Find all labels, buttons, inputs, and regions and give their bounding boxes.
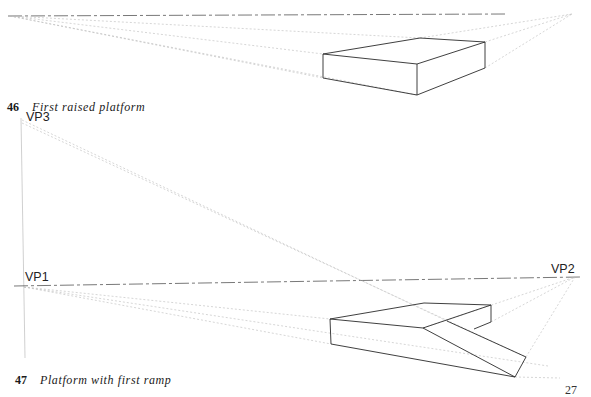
platform-with-ramp <box>330 303 526 377</box>
figure-number: 47 <box>15 373 27 387</box>
raised-platform-box <box>323 38 485 95</box>
perspective-drawings <box>0 0 591 397</box>
figure-47-drawing <box>14 118 580 378</box>
horizon-line <box>14 277 580 286</box>
vp3-label: VP3 <box>26 110 50 124</box>
page-number: 27 <box>565 383 577 397</box>
horizon-line <box>8 14 505 16</box>
figure-46-drawing <box>8 14 572 95</box>
figure-title: Platform with first ramp <box>40 373 171 387</box>
vp2-label: VP2 <box>551 262 575 276</box>
figure-number: 46 <box>7 100 19 114</box>
construction-lines <box>10 14 572 95</box>
construction-lines <box>22 120 575 378</box>
figure-47-caption: 47 Platform with first ramp <box>15 373 171 388</box>
vertical-line <box>21 118 25 358</box>
vp1-label: VP1 <box>25 270 49 284</box>
